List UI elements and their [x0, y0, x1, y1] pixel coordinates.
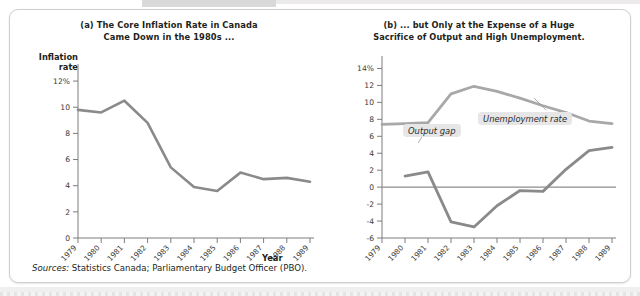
- scan-artifact-top-right: [276, 0, 640, 4]
- panel-b-xtick: 1983: [455, 243, 475, 263]
- panel-b-ytick: 0: [369, 183, 374, 192]
- chart-panel-a: (a) The Core Inflation Rate in Canada Ca…: [10, 10, 328, 246]
- panel-a-xtick: 1979: [59, 243, 79, 263]
- scan-artifact-top-left: [142, 0, 276, 7]
- panel-b-xtick: 1989: [593, 243, 613, 263]
- panel-b-xtick: 1979: [363, 243, 383, 263]
- panel-a-ytick: 8: [65, 129, 70, 138]
- panel-a-xtick: 1986: [221, 243, 241, 263]
- panel-b-xtick: 1980: [386, 243, 406, 263]
- panel-b-xtick: 1986: [524, 243, 544, 263]
- callout-output-gap: Output gap: [403, 124, 461, 137]
- scan-artifact-bottom-texture: [0, 292, 640, 296]
- panel-a-ytick: 10: [60, 103, 70, 112]
- inflation-rate-line: [78, 101, 310, 191]
- panel-a-xtick: 1981: [105, 243, 125, 263]
- panel-a-xtick: 1989: [291, 243, 311, 263]
- panel-a-xtick: 1984: [175, 243, 195, 263]
- panel-b-ytick: 14%: [357, 64, 374, 73]
- panel-b-xtick: 1984: [478, 243, 498, 263]
- panel-a-xtick: 1983: [152, 243, 172, 263]
- panel-b-xtick: 1985: [501, 243, 521, 263]
- panel-b-ytick: -2: [366, 200, 374, 209]
- panel-a-xtick: 1985: [198, 243, 218, 263]
- panel-a-ytick: 6: [65, 155, 70, 164]
- panel-a-plot: 024681012%197919801981198219831984198519…: [10, 10, 328, 246]
- chart-panel-b: (b) ... but Only at the Expense of a Hug…: [328, 10, 630, 246]
- source-label: Sources:: [32, 263, 69, 273]
- panel-b-ytick: -6: [366, 234, 374, 243]
- panel-a-x-axis-label: Year: [262, 253, 283, 263]
- panel-b-xtick: 1988: [570, 243, 590, 263]
- panel-a-ytick: 0: [65, 234, 70, 243]
- panel-b-ytick: 2: [369, 166, 374, 175]
- panel-b-ytick: 12: [364, 81, 374, 90]
- panel-b-ytick: 4: [369, 149, 374, 158]
- charts-container: (a) The Core Inflation Rate in Canada Ca…: [10, 10, 630, 246]
- panel-b-plot: -6-4-202468101214%1979198019811982198319…: [328, 10, 630, 246]
- panel-b-xtick: 1982: [432, 243, 451, 263]
- callout-unemployment-rate: Unemployment rate: [478, 112, 572, 125]
- source-note: Sources: Statistics Canada; Parliamentar…: [32, 263, 307, 273]
- source-text: Statistics Canada; Parliamentary Budget …: [72, 263, 307, 273]
- panel-b-ytick: -4: [366, 217, 374, 226]
- panel-b-xtick: 1987: [547, 243, 567, 263]
- panel-a-ytick: 4: [65, 181, 70, 190]
- panel-a-xtick: 1980: [82, 243, 102, 263]
- figure-frame: (a) The Core Inflation Rate in Canada Ca…: [9, 9, 631, 283]
- panel-b-ytick: 10: [364, 98, 374, 107]
- panel-b-xtick: 1981: [409, 243, 429, 263]
- panel-b-ytick: 8: [369, 115, 374, 124]
- panel-a-ytick: 2: [65, 208, 70, 217]
- panel-b-ytick: 6: [369, 132, 374, 141]
- panel-a-xtick: 1982: [129, 243, 148, 263]
- panel-a-ytick: 12%: [53, 77, 70, 86]
